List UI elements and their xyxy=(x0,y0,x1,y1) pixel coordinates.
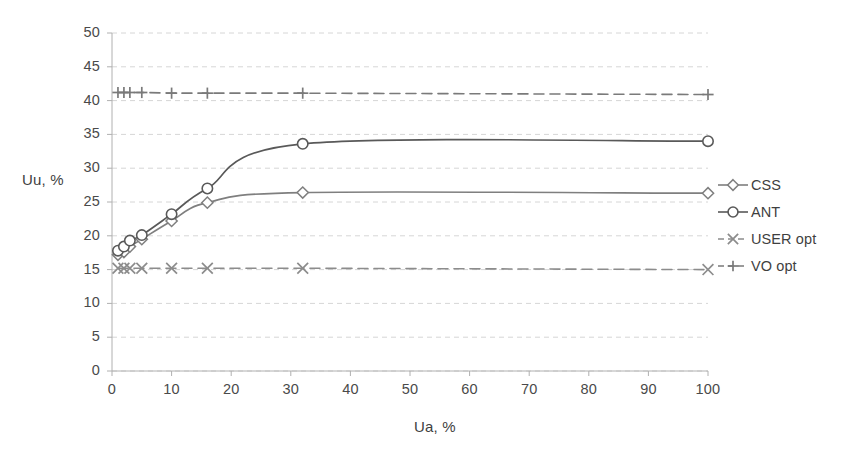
legend-label: VO opt xyxy=(751,258,797,274)
y-tick-label: 35 xyxy=(74,125,100,141)
legend-symbol-circle-icon xyxy=(716,203,750,221)
x-tick-label: 100 xyxy=(691,381,725,397)
y-tick-label: 20 xyxy=(74,227,100,243)
x-tick-label: 80 xyxy=(572,381,606,397)
x-tick-label: 70 xyxy=(512,381,546,397)
series-line-ant xyxy=(118,140,708,251)
legend-item-css[interactable]: CSS xyxy=(716,171,854,198)
x-tick-label: 60 xyxy=(453,381,487,397)
x-tick-label: 90 xyxy=(631,381,665,397)
legend-item-user-opt[interactable]: USER opt xyxy=(716,225,854,252)
x-tick-label: 20 xyxy=(214,381,248,397)
y-tick-label: 40 xyxy=(74,92,100,108)
legend-item-vo-opt[interactable]: VO opt xyxy=(716,252,854,279)
y-tick-label: 0 xyxy=(74,362,100,378)
chart-container: 05101520253035404550 0102030405060708090… xyxy=(0,0,858,462)
marker-circle xyxy=(166,209,176,219)
y-tick-label: 50 xyxy=(74,24,100,40)
legend-item-ant[interactable]: ANT xyxy=(716,198,854,225)
marker-diamond xyxy=(202,197,213,208)
y-tick-label: 45 xyxy=(74,58,100,74)
legend-label: USER opt xyxy=(751,231,816,247)
legend-symbol-diamond-icon xyxy=(716,176,750,194)
x-axis-title: Ua, % xyxy=(414,418,456,435)
legend-symbol-plus-icon xyxy=(716,257,750,275)
y-tick-label: 5 xyxy=(74,328,100,344)
marker-circle xyxy=(298,139,308,149)
tick-marks-group xyxy=(107,33,708,376)
y-tick-label: 30 xyxy=(74,159,100,175)
legend-label: CSS xyxy=(751,177,781,193)
marker-circle xyxy=(137,230,147,240)
x-tick-label: 40 xyxy=(333,381,367,397)
marker-circle xyxy=(728,207,738,217)
legend-symbol-x-icon xyxy=(716,230,750,248)
marker-circle xyxy=(703,136,713,146)
x-tick-label: 0 xyxy=(95,381,129,397)
y-tick-label: 15 xyxy=(74,261,100,277)
y-tick-label: 25 xyxy=(74,193,100,209)
marker-circle xyxy=(125,235,135,245)
series-markers-group xyxy=(112,87,713,275)
x-tick-label: 50 xyxy=(393,381,427,397)
x-tick-label: 30 xyxy=(274,381,308,397)
marker-circle xyxy=(202,183,212,193)
chart-legend: CSSANTUSER optVO opt xyxy=(716,171,854,279)
marker-diamond xyxy=(702,188,713,199)
marker-diamond xyxy=(297,187,308,198)
marker-diamond xyxy=(728,179,739,190)
x-tick-label: 10 xyxy=(155,381,189,397)
y-axis-title: Uu, % xyxy=(22,171,64,188)
series-lines-group xyxy=(118,92,708,269)
y-tick-label: 10 xyxy=(74,294,100,310)
legend-label: ANT xyxy=(751,204,780,220)
